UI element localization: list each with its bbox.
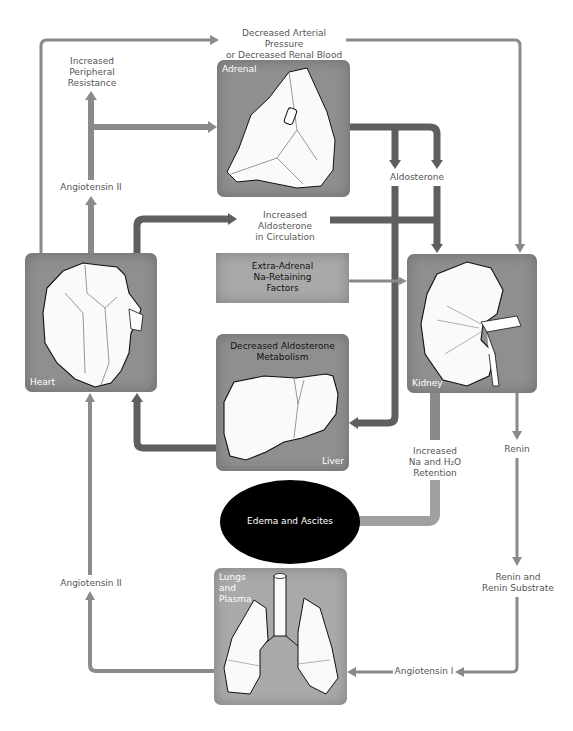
liver-label: Liver — [322, 456, 344, 467]
lungs-icon — [214, 568, 347, 705]
label-peripheral-resistance: Increased Peripheral Resistance — [62, 56, 122, 89]
adrenal-gland-icon — [217, 60, 350, 197]
arrow-heart-to-circulation — [137, 219, 228, 253]
kidney-label: Kidney — [412, 378, 443, 389]
heart-icon — [25, 253, 157, 392]
label-line: Retention — [405, 468, 465, 479]
label-renin-substrate: Renin and Renin Substrate — [480, 572, 556, 594]
label-angiotensin-ii-upper: Angiotensin II — [56, 182, 126, 193]
arrow-lungs-to-angiotensin-ii — [90, 600, 214, 671]
label-line: Extra-Adrenal — [216, 261, 349, 272]
extra-adrenal-text: Extra-Adrenal Na-Retaining Factors — [216, 261, 349, 294]
label-line: Renin and — [480, 572, 556, 583]
liver-icon — [216, 334, 349, 471]
kidney-box: Kidney — [407, 254, 537, 393]
liver-box: Decreased Aldosterone Metabolism Liver — [216, 334, 349, 471]
label-line: Increased — [405, 446, 465, 457]
edema-ascites-node: Edema and Ascites — [220, 480, 360, 564]
label-line: Renin Substrate — [480, 583, 556, 594]
lungs-box: Lungs and Plasma — [214, 568, 347, 705]
label-renin: Renin — [497, 444, 537, 455]
adrenal-box: Adrenal — [217, 60, 350, 197]
label-na-retention: Increased Na and H₂O Retention — [405, 446, 465, 479]
kidney-icon — [407, 254, 537, 393]
label-aldosterone: Aldosterone — [385, 172, 449, 183]
label-line: Na and H₂O — [405, 457, 465, 468]
label-aldosterone-circulation: Increased Aldosterone in Circulation — [236, 210, 334, 243]
edema-ascites-label: Edema and Ascites — [220, 516, 360, 526]
extra-adrenal-box: Extra-Adrenal Na-Retaining Factors — [216, 253, 349, 303]
heart-box: Heart — [25, 253, 157, 392]
arrow-substrate-to-angiotensin-i — [464, 597, 517, 672]
label-line: Factors — [216, 283, 349, 294]
label-angiotensin-i: Angiotensin I — [394, 666, 454, 677]
label-angiotensin-ii-lower: Angiotensin II — [56, 578, 126, 589]
label-line: Decreased Arterial Pressure — [222, 28, 346, 50]
label-line: Increased — [62, 56, 122, 67]
label-line: Peripheral — [62, 67, 122, 78]
label-line: Increased Aldosterone — [236, 210, 334, 232]
arrow-liver-to-heart — [137, 402, 216, 448]
label-line: in Circulation — [236, 232, 334, 243]
heart-label: Heart — [30, 377, 55, 388]
arrow-pressure-to-kidney — [346, 40, 520, 244]
label-line: Resistance — [62, 78, 122, 89]
arrow-retention-to-edema — [359, 480, 435, 521]
label-line: Na-Retaining — [216, 272, 349, 283]
